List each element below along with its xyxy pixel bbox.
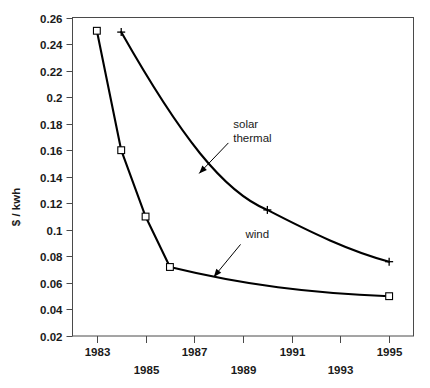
x-tick-label: 1995: [377, 346, 403, 358]
data-point-marker-square: [142, 213, 149, 220]
x-tick-label: 1989: [231, 364, 257, 376]
y-axis-tick-labels: 0.020.040.060.080.10.120.140.160.180.20.…: [40, 13, 63, 343]
y-tick-label: 0.24: [40, 39, 63, 51]
y-tick-label: 0.14: [40, 172, 63, 184]
y-tick-label: 0.2: [47, 92, 63, 104]
plot-frame: [73, 18, 414, 337]
y-tick-label: 0.18: [40, 119, 63, 131]
annotation-solar-thermal-line1: solar: [233, 118, 258, 130]
data-point-marker-square: [167, 264, 174, 271]
y-tick-label: 0.22: [40, 66, 62, 78]
y-tick-label: 0.26: [40, 13, 62, 25]
data-point-marker-square: [386, 293, 393, 300]
x-tick-label: 1991: [280, 346, 306, 358]
y-axis-ticks: [67, 19, 73, 337]
y-tick-label: 0.16: [40, 145, 62, 157]
x-tick-label: 1993: [328, 364, 354, 376]
y-axis-title: $ / kwh: [10, 188, 22, 226]
x-tick-label: 1985: [134, 364, 160, 376]
data-point-marker-square: [93, 27, 100, 34]
y-tick-label: 0.08: [40, 251, 63, 263]
y-tick-label: 0.04: [40, 304, 63, 316]
data-point-marker-square: [118, 147, 125, 154]
annotation-wind: wind: [244, 228, 269, 240]
chart-container: 0.020.040.060.080.10.120.140.160.180.20.…: [0, 0, 430, 388]
x-tick-label: 1983: [85, 346, 111, 358]
x-axis-tick-labels: 1983198519871989199119931995: [85, 346, 403, 376]
annotation-solar-thermal-line2: thermal: [233, 132, 271, 144]
x-tick-label: 1987: [182, 346, 208, 358]
y-tick-label: 0.1: [47, 225, 64, 237]
line-chart: 0.020.040.060.080.10.120.140.160.180.20.…: [0, 0, 430, 388]
y-tick-label: 0.06: [40, 278, 62, 290]
x-axis-ticks: [98, 336, 390, 343]
y-tick-label: 0.02: [40, 331, 62, 343]
y-tick-label: 0.12: [40, 198, 62, 210]
